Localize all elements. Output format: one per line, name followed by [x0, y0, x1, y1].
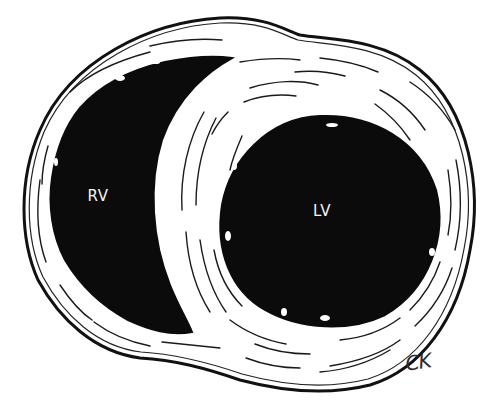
- lv-label: LV: [313, 202, 331, 220]
- heart-cross-section-illustration: RV LV CK: [0, 0, 493, 415]
- rv-label: RV: [88, 187, 109, 205]
- left-ventricle-cavity: [220, 116, 439, 327]
- artist-signature: CK: [404, 348, 432, 375]
